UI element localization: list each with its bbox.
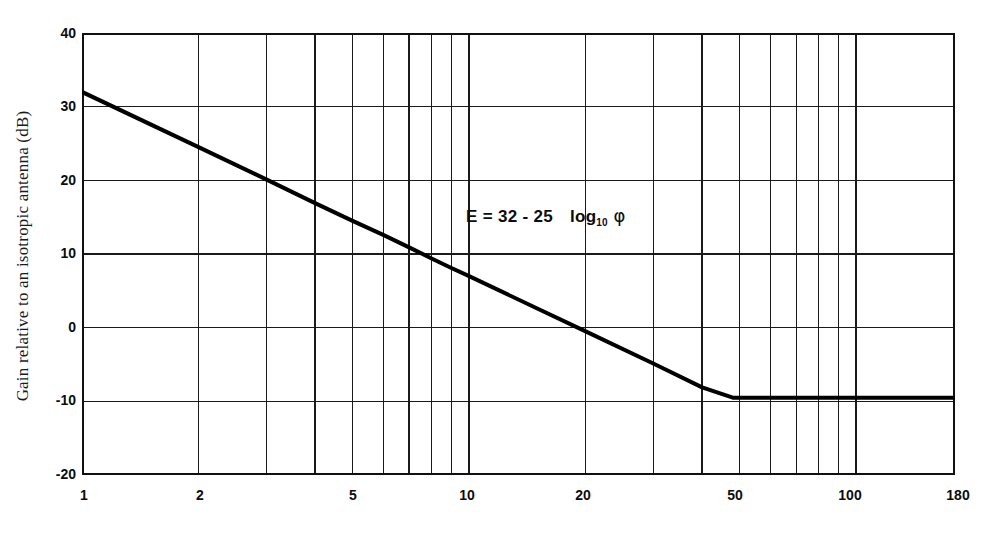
x-tick-180: 180 bbox=[928, 488, 987, 502]
x-tick-10: 10 bbox=[437, 488, 497, 502]
y-tick-0: 0 bbox=[28, 320, 76, 334]
y-tick-neg20: -20 bbox=[28, 467, 76, 481]
gain-curve bbox=[82, 92, 955, 398]
antenna-gain-chart-figure: Gain relative to an isotropic antenna (d… bbox=[0, 0, 987, 534]
y-tick-30: 30 bbox=[28, 99, 76, 113]
x-tick-2: 2 bbox=[170, 488, 230, 502]
x-tick-1: 1 bbox=[54, 488, 114, 502]
x-tick-20: 20 bbox=[553, 488, 613, 502]
grid-lines bbox=[82, 33, 955, 475]
y-axis-tick-labels: 40 30 20 10 0 -10 -20 bbox=[18, 0, 76, 534]
equation-log-base: 10 bbox=[596, 217, 607, 228]
plot-area bbox=[82, 33, 955, 475]
y-tick-20: 20 bbox=[28, 173, 76, 187]
equation-log: log bbox=[570, 207, 596, 226]
x-tick-5: 5 bbox=[323, 488, 383, 502]
x-axis-tick-labels: 1 2 5 10 20 50 100 180 bbox=[0, 488, 987, 510]
equation-expression: 32 - 25 bbox=[498, 207, 553, 226]
y-tick-10: 10 bbox=[28, 246, 76, 260]
plot-svg bbox=[82, 33, 955, 475]
equation-lhs: E = bbox=[466, 207, 493, 226]
series-line-0 bbox=[82, 92, 955, 398]
y-tick-40: 40 bbox=[28, 26, 76, 40]
equation-variable-phi: φ bbox=[613, 205, 625, 226]
x-tick-50: 50 bbox=[705, 488, 765, 502]
y-tick-neg10: -10 bbox=[28, 393, 76, 407]
x-tick-100: 100 bbox=[820, 488, 880, 502]
equation-annotation: E =32 - 25log10φ bbox=[466, 205, 626, 228]
